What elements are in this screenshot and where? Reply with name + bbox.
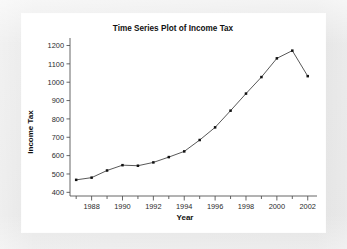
data-point-marker [152, 161, 155, 164]
data-point-marker [90, 176, 93, 179]
data-point-marker [183, 150, 186, 153]
x-tick-label: 1992 [145, 202, 161, 211]
data-point-marker [198, 139, 201, 142]
data-series [75, 49, 309, 181]
y-tick-label: 1000 [48, 78, 64, 87]
data-point-marker [229, 109, 232, 112]
data-point-marker [75, 179, 78, 182]
data-point-marker [291, 49, 294, 52]
x-tick-label: 2002 [300, 202, 316, 211]
x-tick-label: 1998 [238, 202, 254, 211]
data-point-marker [260, 76, 263, 79]
chart-title: Time Series Plot of Income Tax [113, 24, 234, 33]
series-line [76, 51, 308, 180]
x-tick-label: 1988 [83, 202, 99, 211]
x-tick-label: 2000 [269, 202, 285, 211]
y-tick-label: 700 [52, 133, 64, 142]
y-axis: 400500600700800900100011001200 [48, 38, 70, 197]
y-tick-label: 1200 [48, 41, 64, 50]
data-point-marker [245, 92, 248, 95]
y-axis-title: Income Tax [26, 110, 35, 154]
chart-panel: Time Series Plot of Income Tax Income Ta… [22, 14, 325, 232]
y-tick-label: 600 [52, 151, 64, 160]
x-tick-label: 1994 [176, 202, 192, 211]
x-axis-title: Year [177, 213, 194, 222]
x-axis: 19881990199219941996199820002002 [70, 196, 317, 211]
time-series-chart: Time Series Plot of Income Tax Income Ta… [22, 14, 325, 232]
data-point-marker [106, 169, 109, 172]
data-point-marker [137, 164, 140, 167]
data-point-marker [306, 75, 309, 78]
y-tick-label: 500 [52, 170, 64, 179]
data-point-marker [214, 126, 217, 129]
data-point-marker [168, 156, 171, 159]
data-point-marker [276, 57, 279, 60]
chart-window: Time Series Plot of Income Tax Income Ta… [0, 0, 347, 249]
y-tick-label: 400 [52, 188, 64, 197]
data-point-marker [121, 164, 124, 167]
x-tick-label: 1990 [114, 202, 130, 211]
y-tick-label: 1100 [48, 60, 64, 69]
x-tick-label: 1996 [207, 202, 223, 211]
y-tick-label: 900 [52, 96, 64, 105]
y-tick-label: 800 [52, 115, 64, 124]
